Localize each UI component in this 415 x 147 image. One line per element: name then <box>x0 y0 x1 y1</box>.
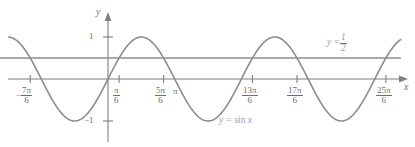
line-label-lhs: y <box>327 38 331 48</box>
denominator: 6 <box>287 95 303 105</box>
denominator: 6 <box>376 95 392 105</box>
x-tick-label-25pi-6: 25π6 <box>376 86 392 105</box>
y-tick-label-neg1: −1 <box>84 116 94 125</box>
numerator: π <box>113 86 120 95</box>
x-tick-label-17pi-6: 17π6 <box>287 86 303 105</box>
y-axis-label: y <box>96 7 100 17</box>
numerator: 25π <box>376 86 392 95</box>
curve-label-argument: x <box>248 115 252 125</box>
sine-graph-figure: y x 1 −1 −7π6 π6 5π6 π 13π6 17π6 25π6 y … <box>0 0 415 147</box>
denominator: 6 <box>242 95 258 105</box>
y-axis <box>105 12 112 142</box>
numerator: 13π <box>242 86 258 95</box>
numerator: 17π <box>287 86 303 95</box>
x-tick-label-pi-6: π6 <box>113 86 120 105</box>
numerator: 1 <box>340 33 347 43</box>
x-tick-label-13pi-6: 13π6 <box>242 86 258 105</box>
x-axis <box>8 76 408 83</box>
numerator: 7π <box>21 86 32 95</box>
curve-label-function: sin <box>234 115 245 125</box>
x-tick-label-pi: π <box>173 87 178 96</box>
denominator: 6 <box>21 95 32 105</box>
curve-label-equals: = <box>226 115 232 125</box>
x-axis-label: x <box>404 82 408 92</box>
curve-label-y-equals-sin-x: y = sin x <box>219 116 252 126</box>
denominator: 6 <box>155 95 166 105</box>
numerator: 5π <box>155 86 166 95</box>
curve-label-lhs: y <box>219 115 223 125</box>
denominator: 2 <box>340 43 347 54</box>
graph-canvas <box>0 0 415 147</box>
y-tick-label-1: 1 <box>89 32 94 41</box>
line-label-y-equals-one-half: y =12 <box>327 33 347 53</box>
x-tick-label-5pi-6: 5π6 <box>155 86 166 105</box>
x-tick-label-neg-7pi-6: −7π6 <box>16 86 32 105</box>
denominator: 6 <box>113 95 120 105</box>
